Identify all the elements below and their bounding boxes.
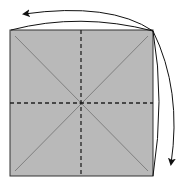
fold-arrow-left-icon [24,10,153,31]
fold-edge-curve-right [153,31,159,176]
origami-diagram [0,0,181,181]
center-point [80,102,83,105]
